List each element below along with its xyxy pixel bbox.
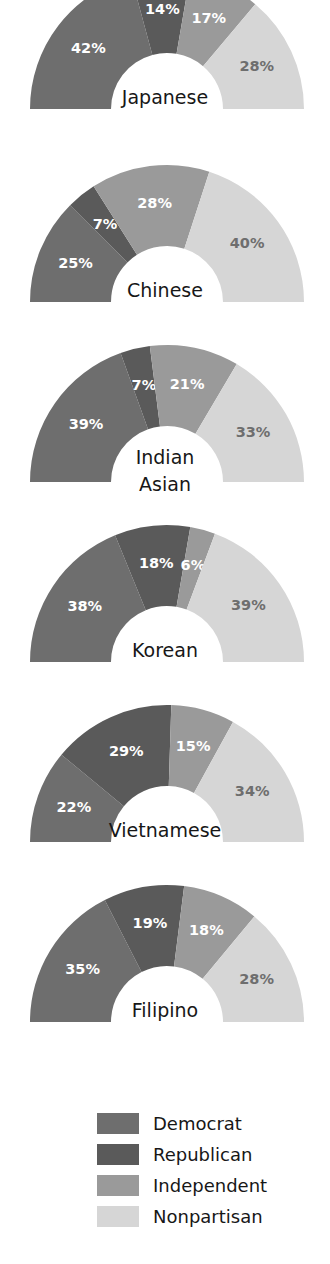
legend-item-democrat: Democrat	[0, 1108, 330, 1139]
gauge-chart-chinese: 25%7%28%40%Chinese	[0, 162, 330, 334]
slice-value-independent: 21%	[170, 376, 205, 392]
gauge-group-label: Vietnamese	[109, 819, 221, 841]
legend-label: Nonpartisan	[153, 1208, 263, 1226]
slice-value-nonpartisan: 34%	[235, 783, 270, 799]
gauge-group-label: Indian	[136, 446, 195, 468]
slice-value-independent: 18%	[189, 922, 224, 938]
slice-value-republican: 7%	[132, 377, 157, 393]
gauge-chart-indian-asian: 39%7%21%33%IndianAsian	[0, 342, 330, 514]
legend-label: Democrat	[153, 1115, 242, 1133]
slice-value-nonpartisan: 28%	[239, 58, 274, 74]
gauge-chart-japanese: 42%14%17%28%Japanese	[0, 0, 330, 141]
gauge-chart-korean: 38%18%6%39%Korean	[0, 522, 330, 694]
slice-value-democrat: 39%	[69, 416, 104, 432]
asian-american-party-affiliation-gauges: 42%14%17%28%Japanese25%7%28%40%Chinese39…	[0, 0, 330, 1264]
legend-swatch-icon	[97, 1206, 139, 1227]
slice-value-nonpartisan: 39%	[231, 597, 266, 613]
slice-value-republican: 18%	[139, 555, 174, 571]
legend-swatch-icon	[97, 1175, 139, 1196]
slice-value-democrat: 35%	[65, 961, 100, 977]
slice-value-nonpartisan: 40%	[230, 235, 265, 251]
slice-value-independent: 15%	[176, 738, 211, 754]
slice-value-democrat: 22%	[56, 799, 91, 815]
slice-value-nonpartisan: 28%	[239, 971, 274, 987]
slice-value-nonpartisan: 33%	[236, 424, 271, 440]
legend-label: Republican	[153, 1146, 252, 1164]
legend-label: Independent	[153, 1177, 267, 1195]
slice-value-democrat: 38%	[67, 598, 102, 614]
gauge-group-label: Korean	[132, 639, 198, 661]
slice-value-independent: 28%	[137, 195, 172, 211]
slice-value-republican: 14%	[145, 1, 180, 17]
gauge-group-label: Chinese	[127, 279, 203, 301]
slice-value-democrat: 42%	[71, 40, 106, 56]
slice-value-independent: 17%	[191, 10, 226, 26]
gauge-chart-vietnamese: 22%29%15%34%Vietnamese	[0, 702, 330, 874]
gauge-group-label: Asian	[139, 473, 191, 495]
legend-item-nonpartisan: Nonpartisan	[0, 1201, 330, 1232]
slice-value-republican: 19%	[133, 915, 168, 931]
legend-item-independent: Independent	[0, 1170, 330, 1201]
chart-legend: DemocratRepublicanIndependentNonpartisan	[0, 1108, 330, 1232]
legend-swatch-icon	[97, 1144, 139, 1165]
slice-value-democrat: 25%	[58, 255, 93, 271]
slice-value-republican: 29%	[109, 743, 144, 759]
legend-item-republican: Republican	[0, 1139, 330, 1170]
gauge-group-label: Filipino	[132, 999, 198, 1021]
legend-swatch-icon	[97, 1113, 139, 1134]
gauge-chart-filipino: 35%19%18%28%Filipino	[0, 882, 330, 1054]
gauge-group-label: Japanese	[121, 86, 208, 108]
